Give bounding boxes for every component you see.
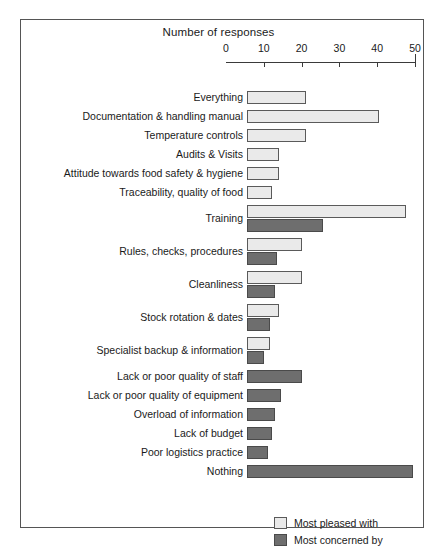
bar-most-concerned-by	[247, 408, 275, 421]
chart-figure: Number of responses 01020304050 Everythi…	[20, 19, 424, 528]
bar-row	[21, 148, 441, 161]
legend-label: Most concerned by	[294, 534, 383, 546]
bar-most-pleased-with	[247, 167, 279, 180]
bar-most-pleased-with	[247, 205, 406, 218]
chart-legend: Most pleased withMost concerned by	[274, 515, 434, 547]
bar-most-pleased-with	[247, 91, 306, 104]
bar-most-pleased-with	[247, 304, 279, 317]
bar-row	[21, 337, 441, 350]
bar-row	[21, 129, 441, 142]
bar-row	[21, 167, 441, 180]
bar-rows: EverythingDocumentation & handling manua…	[21, 20, 441, 529]
bar-row	[21, 186, 441, 199]
bar-row	[21, 351, 441, 364]
bar-most-pleased-with	[247, 148, 279, 161]
bar-most-pleased-with	[247, 271, 302, 284]
bar-row	[21, 252, 441, 265]
bar-row	[21, 389, 441, 402]
bar-row	[21, 205, 441, 218]
bar-most-concerned-by	[247, 285, 275, 298]
bar-most-concerned-by	[247, 351, 264, 364]
bar-most-concerned-by	[247, 252, 277, 265]
bar-most-pleased-with	[247, 186, 272, 199]
legend-swatch-light	[274, 517, 287, 529]
bar-row	[21, 408, 441, 421]
bar-row	[21, 271, 441, 284]
bar-row	[21, 304, 441, 317]
bar-most-concerned-by	[247, 446, 268, 459]
bar-row	[21, 446, 441, 459]
legend-item: Most pleased with	[274, 515, 434, 530]
bar-most-concerned-by	[247, 370, 302, 383]
bar-most-concerned-by	[247, 318, 270, 331]
legend-label: Most pleased with	[294, 517, 378, 529]
bar-row	[21, 318, 441, 331]
bar-row	[21, 219, 441, 232]
bar-most-concerned-by	[247, 219, 323, 232]
bar-row	[21, 110, 441, 123]
legend-item: Most concerned by	[274, 532, 434, 547]
bar-most-pleased-with	[247, 129, 306, 142]
bar-row	[21, 91, 441, 104]
bar-most-pleased-with	[247, 110, 379, 123]
bar-row	[21, 238, 441, 251]
bar-most-pleased-with	[247, 238, 302, 251]
bar-row	[21, 427, 441, 440]
bar-row	[21, 285, 441, 298]
bar-most-concerned-by	[247, 389, 281, 402]
bar-row	[21, 370, 441, 383]
legend-swatch-dark	[274, 534, 287, 546]
bar-row	[21, 465, 441, 478]
bar-most-pleased-with	[247, 337, 270, 350]
bar-most-concerned-by	[247, 465, 413, 478]
bar-most-concerned-by	[247, 427, 272, 440]
